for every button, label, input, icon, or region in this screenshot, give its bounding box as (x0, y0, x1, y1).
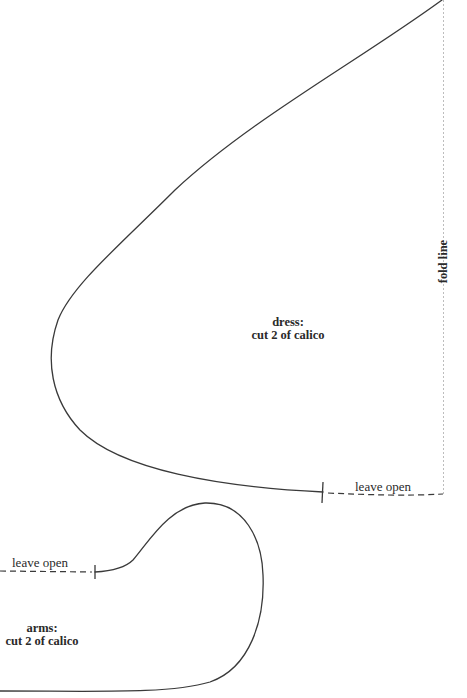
dress-outline (51, 0, 442, 492)
arms-instruction: cut 2 of calico (0, 635, 84, 648)
pattern-sheet (0, 0, 467, 698)
arms-label: arms: cut 2 of calico (0, 622, 84, 648)
dress-notch (322, 482, 323, 503)
arms-outline (0, 503, 263, 691)
fold-line-label: fold line (437, 237, 450, 287)
dress-instruction: cut 2 of calico (228, 329, 348, 342)
dress-leave-open-label: leave open (355, 480, 411, 494)
dress-label: dress: cut 2 of calico (228, 316, 348, 342)
arms-leave-open-label: leave open (12, 556, 68, 570)
arms-leave-open-edge (0, 571, 92, 572)
